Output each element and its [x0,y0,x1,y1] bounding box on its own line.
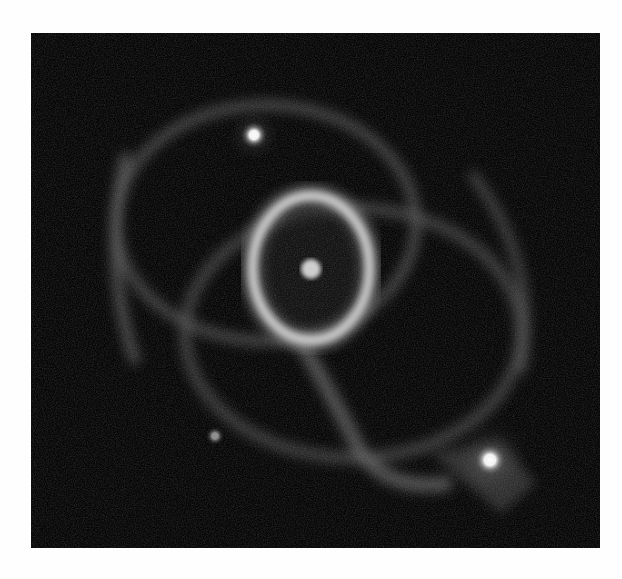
page [0,0,622,579]
astronomical-image [31,33,600,548]
nebula-rendering [31,33,600,548]
image-grain [31,33,600,548]
